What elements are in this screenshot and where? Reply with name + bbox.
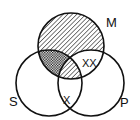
mark-xx: XX	[82, 57, 97, 69]
mark-x: X	[63, 94, 71, 106]
label-m: M	[106, 15, 117, 30]
label-p: P	[120, 95, 129, 110]
venn-diagram: M S P XX X	[0, 0, 140, 120]
label-s: S	[9, 94, 18, 109]
